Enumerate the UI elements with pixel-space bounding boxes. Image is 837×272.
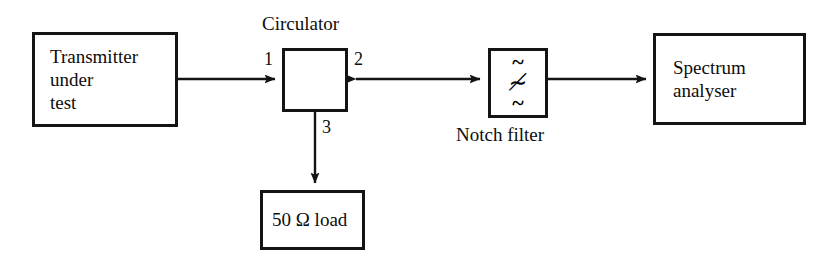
circulator-port-2-label: 2 (354, 50, 363, 68)
spectrum-analyser-label: Spectrum analyser (673, 56, 813, 102)
block-diagram: Transmitter under test Circulator 1 2 3 … (0, 0, 837, 272)
circulator-port-3-label: 3 (322, 118, 331, 136)
notch-filter-caption: Notch filter (456, 124, 544, 147)
notch-filter-response-icon: ~ ≁ ~ (488, 48, 548, 118)
load-label: 50 Ω load (272, 208, 372, 231)
transmitter-label: Transmitter under test (50, 45, 180, 115)
circulator-caption: Circulator (262, 13, 339, 36)
block-circulator (282, 48, 348, 112)
circulator-port-1-label: 1 (264, 50, 273, 68)
tilde-glyph-bottom: ~ (512, 93, 523, 114)
